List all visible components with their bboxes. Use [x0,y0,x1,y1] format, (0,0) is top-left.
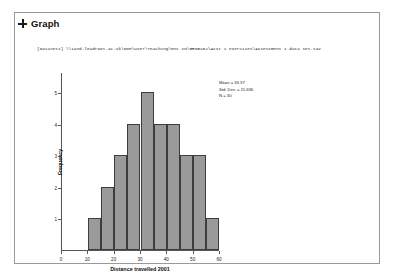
histogram-bar [193,155,206,250]
histogram-bar [88,218,101,250]
x-tick-mark [166,251,167,254]
x-axis-title: Distance travelled 2001 [110,266,170,272]
histogram-bar [114,155,127,250]
y-tick-mark [58,156,61,157]
histogram-bar [154,124,167,250]
histogram-bar [127,124,140,250]
page-title: Graph [31,18,59,29]
y-tick-label: 2 [54,185,57,190]
x-tick-label-60: 60 [216,257,221,262]
histogram-chart: Frequency 12345 0102030405060 Distance t… [43,68,353,258]
histogram-bar [167,124,180,250]
y-tick-label: 4 [54,122,57,127]
y-tick-mark [58,93,61,94]
y-tick-mark [58,125,61,126]
y-tick-label: 1 [54,217,57,222]
x-tick-label-10: 10 [85,257,90,262]
y-tick-label: 3 [54,154,57,159]
graph-header[interactable]: Graph [18,18,59,29]
histogram-bar [101,187,114,250]
histogram-bar [206,218,219,250]
x-tick-mark [114,251,115,254]
x-tick-label-50: 50 [190,257,195,262]
x-tick-label-30: 30 [137,257,142,262]
spss-output-panel: Graph [DataSet1] \\iand.leadroot.ac.uk\D… [14,12,380,264]
statistics-annotation: Mean = 33.37 Std. Dev. = 11.636 N = 30 [219,80,253,100]
dataset-path-text: [DataSet1] \\iand.leadroot.ac.uk\DOM\Use… [37,46,321,51]
histogram-bar [141,92,154,250]
y-tick-mark [58,219,61,220]
x-tick-label-0: 0 [60,257,63,262]
histogram-bar [180,155,193,250]
x-tick-mark [61,251,62,254]
x-tick-mark [87,251,88,254]
y-tick-label: 5 [54,90,57,95]
x-tick-mark [219,251,220,254]
stat-n: N = 30 [219,93,253,100]
plot-area: Frequency 12345 0102030405060 Distance t… [61,73,219,251]
histogram-bars [62,73,219,250]
x-tick-mark [193,251,194,254]
y-tick-mark [58,188,61,189]
x-tick-label-40: 40 [164,257,169,262]
x-tick-mark [140,251,141,254]
x-tick-label-20: 20 [111,257,116,262]
plus-expander-icon[interactable] [18,19,27,28]
